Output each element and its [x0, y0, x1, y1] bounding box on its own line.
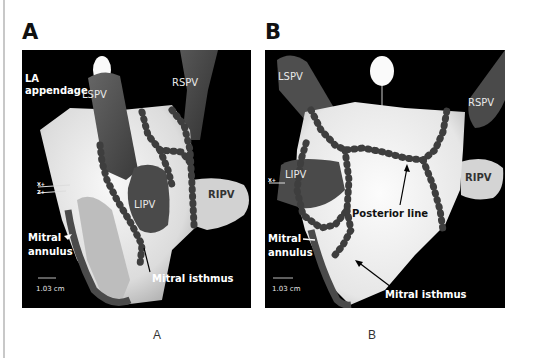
panel-a-image: X+ Z+ LA appendage LSPV RSPV LIPV RIPV M… — [22, 50, 251, 308]
la-appendage-label-line1: LA — [25, 73, 39, 84]
ripv-label: RIPV — [465, 172, 492, 183]
mitral-annulus-label-line2: annulus — [268, 247, 313, 258]
rspv-label: RSPV — [172, 77, 198, 88]
posterior-line-label: Posterior line — [352, 208, 428, 219]
panel-b-3d-map: X+ LSPV RSPV LIPV RIPV Posterior line Mi… — [265, 50, 505, 308]
axis-x-label: X+ — [37, 181, 45, 187]
ripv-label: RIPV — [208, 189, 235, 200]
panel-b-image: X+ LSPV RSPV LIPV RIPV Posterior line Mi… — [265, 50, 505, 308]
mitral-annulus-label-line1: Mitral — [268, 233, 301, 244]
mitral-isthmus-label: Mitral isthmus — [152, 273, 234, 284]
rspv-vein — [468, 50, 505, 128]
scale-label: 1.03 cm — [36, 285, 65, 293]
panel-a-letter: A — [22, 22, 38, 43]
catheter-balloon — [370, 56, 394, 86]
mitral-annulus-label-line2: annulus — [28, 246, 73, 257]
lspv-label: LSPV — [278, 71, 303, 82]
panel-b-caption: B — [368, 328, 376, 342]
la-appendage-label-line2: appendage — [25, 85, 88, 96]
rspv-label: RSPV — [468, 97, 494, 108]
mitral-annulus-arrow — [303, 239, 315, 240]
lipv-label: LIPV — [285, 169, 307, 180]
scale-label: 1.03 cm — [272, 285, 301, 293]
mitral-annulus-label-line1: Mitral — [28, 232, 61, 243]
la-appendage-arrow-icon — [48, 102, 54, 116]
ripv-vein — [192, 178, 249, 230]
axis-z-label: Z+ — [37, 189, 45, 195]
panel-a-3d-map: X+ Z+ LA appendage LSPV RSPV LIPV RIPV M… — [22, 50, 251, 308]
panel-b-letter: B — [265, 22, 281, 43]
axis-x-label: X+ — [268, 177, 276, 183]
lipv-label: LIPV — [134, 199, 156, 210]
mitral-isthmus-label: Mitral isthmus — [385, 289, 467, 300]
panel-a-caption: A — [153, 328, 161, 342]
page-left-rule — [3, 0, 5, 358]
lspv-label: LSPV — [82, 89, 107, 100]
